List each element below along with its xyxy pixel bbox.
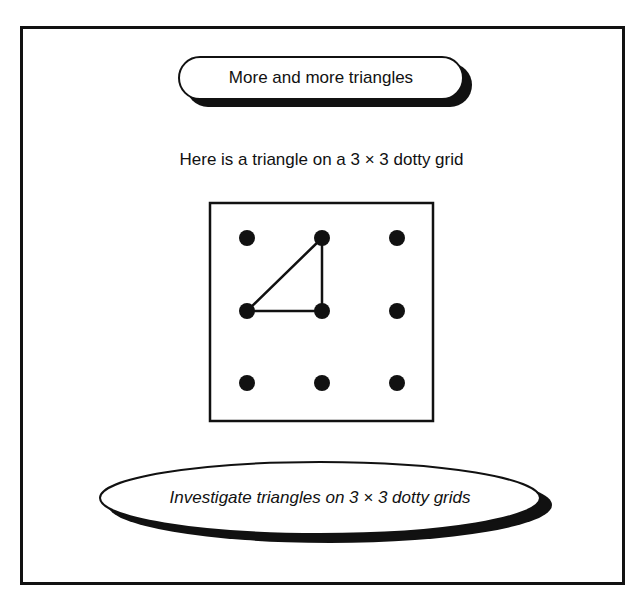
- triangle-shape: [247, 238, 322, 311]
- dot: [389, 303, 405, 319]
- dot: [239, 303, 255, 319]
- dot: [389, 230, 405, 246]
- dot: [239, 375, 255, 391]
- dot: [389, 375, 405, 391]
- task-text: Investigate triangles on 3 × 3 dotty gri…: [120, 488, 520, 508]
- dot: [314, 375, 330, 391]
- dot: [314, 230, 330, 246]
- dot: [239, 230, 255, 246]
- dotty-grid-diagram: [0, 0, 643, 604]
- dot: [314, 303, 330, 319]
